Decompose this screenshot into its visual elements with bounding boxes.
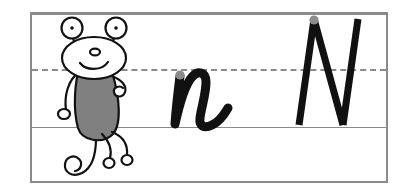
right-pupil: [114, 26, 118, 30]
left-pupil: [70, 26, 74, 30]
uppercase-n-diagonal-stroke: [314, 19, 343, 125]
handwriting-frame: [30, 12, 388, 183]
left-leg: [102, 134, 111, 158]
right-hand: [114, 87, 125, 97]
left-arm: [66, 72, 79, 110]
right-arm: [112, 76, 125, 92]
head: [62, 37, 126, 79]
worksheet-root: [0, 0, 407, 193]
uppercase-n-right-stroke: [343, 19, 358, 125]
uppercase-n-left-stroke: [299, 19, 314, 125]
uppercase-letter-n: [277, 14, 387, 144]
artwork-layer: [32, 14, 386, 181]
lowercase-letter-n: [162, 14, 272, 144]
left-eye: [62, 18, 83, 39]
right-foot: [122, 155, 133, 165]
guide-line-top: [32, 14, 386, 15]
right-eye-stalk: [106, 34, 114, 56]
nose: [90, 49, 100, 56]
lowercase-n-stroke: [175, 73, 228, 127]
right-eye: [106, 18, 127, 39]
left-eye-stalk: [73, 34, 82, 56]
left-hand: [58, 109, 70, 119]
left-foot: [104, 158, 115, 168]
guide-line-middle-dashed: [32, 69, 386, 71]
right-leg: [112, 132, 127, 155]
uppercase-n-start-dot: [309, 15, 318, 24]
lowercase-n-start-dot: [175, 70, 184, 79]
smile: [80, 62, 108, 69]
guide-line-baseline: [32, 127, 386, 128]
curly-tail: [65, 138, 96, 175]
mascot-creature: [40, 10, 160, 185]
